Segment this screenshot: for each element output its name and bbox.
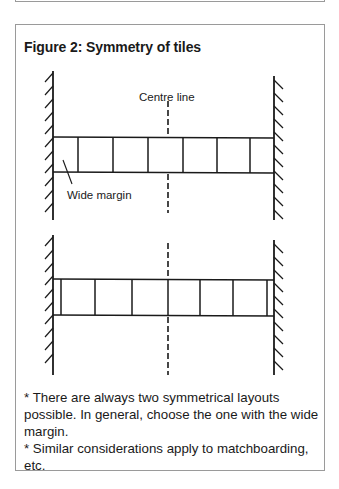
right-wall-hatching: [274, 244, 283, 370]
diagram-narrow-margin: [45, 235, 283, 375]
left-wall-hatching: [45, 73, 53, 212]
centre-line-label: Centre line: [139, 91, 195, 103]
tile-symmetry-diagram: Centre line Wide margin: [0, 0, 339, 489]
left-wall-hatching: [45, 237, 53, 363]
tile-row: [53, 137, 274, 173]
right-wall-hatching: [274, 80, 283, 219]
wide-margin-label: Wide margin: [67, 189, 132, 201]
tile-row: [53, 279, 274, 316]
